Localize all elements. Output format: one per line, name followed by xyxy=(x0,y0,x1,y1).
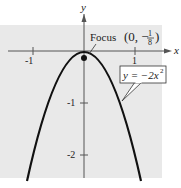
parabola-chart: x y -1 1 -1 -2 Focus (0, − 1 8 ) y = −2x… xyxy=(0,0,181,188)
y-tick-label-neg1: -1 xyxy=(67,97,75,108)
x-tick-label-1: 1 xyxy=(132,55,137,66)
focus-coord-close: ) xyxy=(155,29,159,44)
equation-exponent: 2 xyxy=(160,67,164,75)
focus-frac-den: 8 xyxy=(148,38,152,47)
y-tick-label-neg2: -2 xyxy=(67,149,75,160)
x-axis-label: x xyxy=(173,44,179,56)
y-axis-arrow-icon xyxy=(82,14,87,22)
focus-point xyxy=(81,55,87,61)
focus-label: Focus xyxy=(90,31,116,43)
equation-label: y = −2x xyxy=(122,69,159,81)
y-axis-label: y xyxy=(80,1,86,13)
focus-coord-open: (0, − xyxy=(124,29,149,44)
focus-frac-num: 1 xyxy=(148,29,152,38)
x-tick-label-neg1: -1 xyxy=(25,55,33,66)
focus-label-text: Focus xyxy=(90,31,116,43)
x-axis-arrow-icon xyxy=(164,49,172,54)
